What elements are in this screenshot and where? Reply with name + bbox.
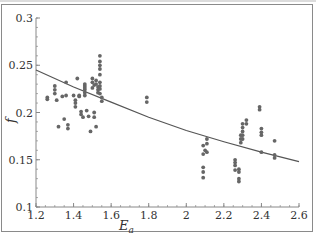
x-tick-label: 1.8	[140, 209, 158, 222]
y-tick-label: 0.2	[16, 107, 34, 120]
data-point	[237, 170, 241, 174]
x-tick-label: 1.4	[65, 209, 83, 222]
data-point	[241, 130, 245, 134]
y-tick-label: 0.3	[16, 12, 34, 25]
data-point	[201, 165, 205, 169]
data-point	[145, 100, 149, 104]
data-point	[260, 127, 264, 131]
data-point	[241, 133, 245, 137]
data-point	[92, 115, 96, 119]
data-point	[53, 92, 57, 96]
data-point	[89, 130, 93, 134]
data-point	[57, 125, 61, 129]
data-point	[239, 141, 243, 145]
data-point	[98, 60, 102, 64]
data-point	[98, 54, 102, 58]
data-point	[201, 152, 205, 156]
data-point	[55, 98, 59, 102]
data-point	[237, 180, 241, 184]
data-point	[98, 87, 102, 91]
data-point	[60, 95, 64, 99]
data-point	[201, 170, 205, 174]
data-point	[145, 96, 149, 100]
fit-curve	[36, 70, 299, 162]
data-point	[241, 122, 245, 126]
data-point	[258, 108, 262, 112]
data-point	[83, 82, 87, 86]
y-tick-label: 0.25	[9, 59, 34, 72]
data-point	[92, 111, 96, 115]
data-point	[233, 164, 237, 168]
data-point	[98, 67, 102, 71]
data-point	[87, 114, 91, 118]
x-tick-label: 2	[183, 209, 190, 222]
data-point	[205, 137, 209, 141]
data-point	[91, 77, 95, 81]
data-points	[45, 54, 276, 184]
y-tick-label: 0.1	[16, 201, 34, 214]
data-point	[53, 84, 57, 88]
data-point	[53, 88, 57, 92]
data-point	[45, 97, 49, 101]
data-point	[241, 137, 245, 141]
data-point	[260, 133, 264, 137]
data-point	[98, 63, 102, 67]
x-tick-label: 2.4	[253, 209, 271, 222]
data-point	[74, 105, 78, 109]
x-tick-label: 2.2	[215, 209, 233, 222]
y-tick-label: 0.15	[9, 154, 34, 167]
data-point	[66, 123, 70, 127]
data-point	[201, 176, 205, 180]
data-point	[233, 168, 237, 172]
data-point	[62, 117, 66, 121]
data-point	[66, 127, 70, 131]
data-point	[85, 109, 89, 113]
data-point	[241, 126, 245, 130]
data-point	[100, 96, 104, 100]
ticks	[36, 18, 299, 207]
data-point	[273, 156, 277, 160]
data-point	[75, 77, 79, 81]
data-point	[205, 142, 209, 146]
data-point	[201, 144, 205, 148]
data-point	[100, 99, 104, 103]
x-axis-title: Ea	[118, 218, 134, 235]
data-point	[260, 150, 264, 154]
data-point	[98, 73, 102, 77]
x-tick-label: 2.6	[290, 209, 308, 222]
data-point	[74, 101, 78, 105]
axis-labels: 1.21.41.61.822.22.42.60.10.150.20.250.3E…	[3, 12, 308, 235]
data-point	[245, 118, 249, 122]
x-tick-label: 1.6	[102, 209, 120, 222]
data-point	[245, 122, 249, 126]
data-point	[64, 94, 68, 98]
data-point	[98, 92, 102, 96]
data-point	[72, 94, 76, 98]
axes	[36, 18, 299, 207]
fit-line-path	[36, 70, 299, 162]
data-point	[77, 95, 81, 99]
data-point	[94, 125, 98, 129]
scatter-chart: 1.21.41.61.822.22.42.60.10.150.20.250.3E…	[0, 0, 316, 235]
data-point	[98, 80, 102, 84]
data-point	[81, 115, 85, 119]
data-point	[64, 80, 68, 84]
data-point	[273, 139, 277, 143]
data-point	[94, 79, 98, 83]
data-point	[205, 150, 209, 154]
